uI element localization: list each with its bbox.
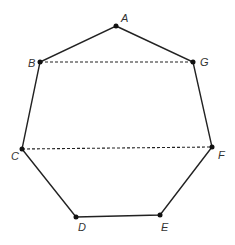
label-a: A xyxy=(120,12,128,24)
label-d: D xyxy=(78,221,86,233)
heptagon-diagram: A G F E D C B xyxy=(0,0,235,245)
vertex-c xyxy=(20,147,25,152)
label-e: E xyxy=(161,221,169,233)
vertex-e xyxy=(158,213,163,218)
label-b: B xyxy=(28,57,35,69)
label-g: G xyxy=(200,56,209,68)
vertex-g xyxy=(191,60,196,65)
label-c: C xyxy=(11,150,19,162)
label-f: F xyxy=(218,149,226,161)
vertex-a xyxy=(114,24,119,29)
dashed-segment-cf xyxy=(22,147,212,149)
vertex-b xyxy=(38,60,43,65)
heptagon-outline xyxy=(22,26,212,217)
vertex-d xyxy=(74,215,79,220)
vertex-f xyxy=(210,145,215,150)
